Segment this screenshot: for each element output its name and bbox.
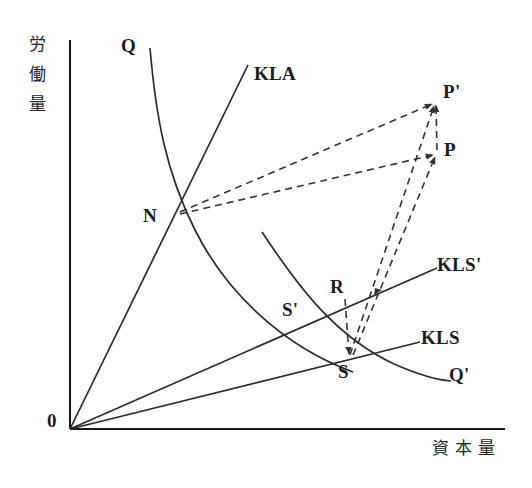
dash-s-to-p-prime: [350, 106, 434, 355]
curve-label-q-prime: Q': [449, 365, 470, 384]
diagram-canvas: 労 働 量 資本量 0 Q KLA KLS' KLS Q' P' P N R S…: [0, 0, 532, 488]
dash-s-to-p: [353, 157, 435, 355]
kls-ray: [70, 342, 420, 429]
rays-group: [70, 65, 437, 429]
y-axis-label-char-2: 働: [24, 66, 50, 83]
curve-label-kla: KLA: [254, 64, 296, 83]
origin-label: 0: [47, 411, 57, 430]
q-isoquant: [150, 48, 353, 372]
axes-group: [70, 40, 505, 429]
point-label-n: N: [143, 206, 157, 225]
dash-n-to-p-prime: [180, 104, 432, 212]
dash-p-to-p-prime: [436, 105, 437, 150]
point-label-s-prime: S': [282, 300, 298, 319]
x-axis-label: 資本量: [432, 440, 501, 457]
isoquants-group: [150, 48, 451, 381]
dashed-group: [180, 104, 437, 355]
curve-label-q: Q: [121, 36, 136, 55]
point-label-p: P: [444, 140, 456, 159]
y-axis-label: 労 働 量: [24, 36, 50, 126]
point-label-r: R: [330, 277, 344, 296]
curve-label-kls-prime: KLS': [437, 255, 482, 274]
y-axis-label-char-1: 労: [24, 36, 50, 53]
point-label-p-prime: P': [443, 82, 461, 101]
curve-label-kls: KLS: [421, 328, 460, 347]
dash-n-to-p: [180, 155, 433, 214]
y-axis-label-char-3: 量: [24, 96, 50, 113]
kls-prime-ray: [70, 268, 437, 429]
point-label-s: S: [338, 362, 349, 381]
